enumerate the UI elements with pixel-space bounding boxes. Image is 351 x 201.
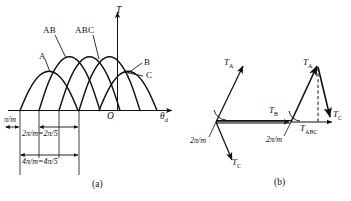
curve-label-C: C [146, 71, 152, 80]
leader-ABC [93, 35, 99, 59]
origin-label-O: O [107, 112, 114, 122]
angle-leader-right [284, 122, 291, 136]
leader-AB [55, 35, 66, 58]
vector-TC-right [318, 67, 330, 117]
angle-label-left-2pi-over-m: 2π/m [190, 137, 206, 145]
panel-a [6, 12, 172, 175]
vector-label-TB: TB [269, 106, 278, 117]
caption-panel-a: (a) [92, 180, 103, 190]
vector-label-TC-left: TC [232, 158, 241, 169]
vector-label-TA-left: TA [224, 58, 233, 69]
vector-TB-bar [216, 121, 291, 124]
curve-A [20, 71, 78, 110]
dimension-label-pi-over-m: π/m [4, 116, 16, 124]
axis-label-theta-d: θd [160, 112, 168, 123]
curve-ABC [59, 57, 120, 111]
curve-label-B: B [144, 58, 150, 67]
curve-label-AB: AB [43, 26, 56, 35]
vector-label-TC-right: TC [333, 110, 342, 121]
caption-panel-b: (b) [274, 178, 285, 188]
curve-label-A: A [39, 52, 46, 61]
vector-TC-left [216, 122, 232, 160]
curve-B [79, 57, 140, 111]
dimension-label-two-pi-over-m: 2π/m=2π/5 [22, 130, 58, 138]
vector-TA-right [291, 66, 317, 122]
vector-star-left [209, 66, 243, 160]
vector-label-TA-right: TA [303, 58, 312, 69]
angle-label-right-2pi-over-m: 2π/m [266, 136, 282, 144]
curve-label-ABC: ABC [75, 26, 94, 35]
vector-TA-left [216, 66, 243, 122]
leader-B [128, 63, 142, 73]
vector-label-TABC: TABC [300, 124, 318, 135]
angle-leader-left [209, 122, 216, 137]
dimension-label-four-pi-over-m: 4π/m=4π/5 [22, 158, 58, 166]
axis-label-T: T [116, 6, 121, 16]
curve-AB [39, 57, 100, 111]
